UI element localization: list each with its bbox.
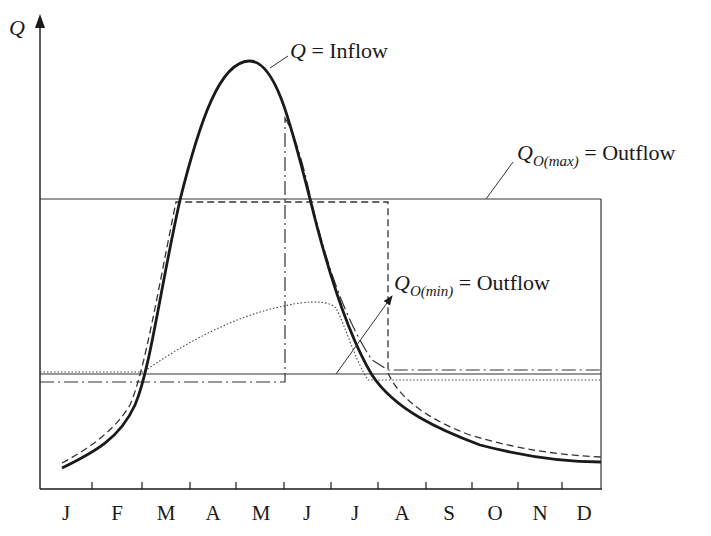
month-label: O bbox=[487, 501, 502, 525]
qmax-text: = Outflow bbox=[579, 140, 676, 165]
x-tick-labels: J F M A M J J A S O N D bbox=[62, 501, 592, 525]
month-label: J bbox=[303, 501, 311, 525]
month-label: J bbox=[62, 501, 70, 525]
month-label: M bbox=[157, 501, 176, 525]
month-label: S bbox=[443, 501, 455, 525]
dotted-outflow-series bbox=[40, 302, 601, 380]
qmin-annotation: QO(min) = Outflow bbox=[394, 270, 550, 300]
qmin-q-symbol: Q bbox=[394, 270, 410, 295]
month-label: J bbox=[351, 501, 359, 525]
x-ticks bbox=[92, 482, 562, 489]
y-axis-label: Q bbox=[9, 15, 25, 40]
qmin-text: = Outflow bbox=[453, 270, 550, 295]
inflow-series bbox=[62, 61, 601, 468]
qmax-annotation: QO(max) = Outflow bbox=[517, 140, 676, 170]
inflow-annotation: Q = Inflow bbox=[290, 38, 388, 63]
inflow-q-symbol: Q bbox=[290, 38, 306, 63]
qmax-subscript: O(max) bbox=[533, 153, 579, 170]
hydrograph-chart: Q J F M A M J J A S O N D Q = Inflow QO(… bbox=[0, 0, 711, 536]
qmin-subscript: O(min) bbox=[410, 283, 453, 300]
month-label: F bbox=[111, 501, 123, 525]
month-label: D bbox=[576, 501, 591, 525]
month-label: A bbox=[205, 501, 221, 525]
month-label: A bbox=[394, 501, 410, 525]
dashed-outflow-series bbox=[62, 202, 601, 463]
qmax-q-symbol: Q bbox=[517, 140, 533, 165]
inflow-leader-line bbox=[270, 56, 288, 68]
qmax-leader-line bbox=[486, 162, 513, 199]
month-label: M bbox=[252, 501, 271, 525]
axes bbox=[35, 14, 602, 489]
y-axis-arrow-icon bbox=[35, 14, 45, 28]
inflow-text: = Inflow bbox=[306, 38, 388, 63]
month-label: N bbox=[532, 501, 547, 525]
